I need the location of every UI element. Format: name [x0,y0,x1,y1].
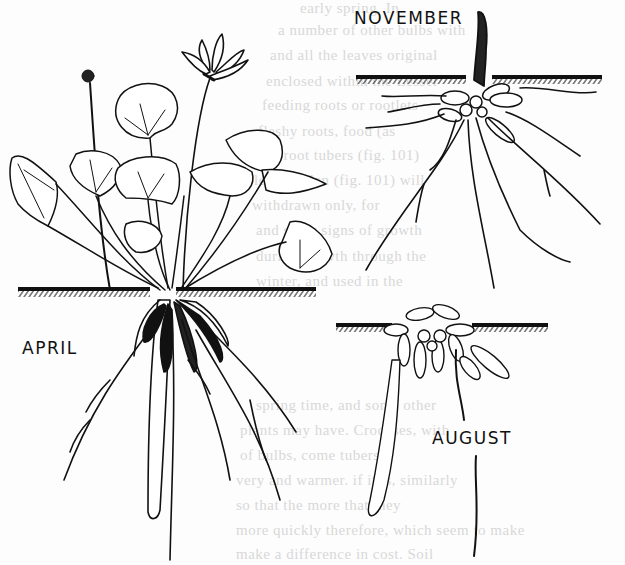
illustration-canvas: early spring. In a number of other bulbs… [0,0,625,565]
label-august: AUGUST [432,428,512,448]
august-root [456,350,477,556]
november-plant [356,12,602,288]
april-roots [64,300,296,560]
drawing [0,0,625,565]
august-tuber-cluster [368,302,513,516]
november-roots [366,88,600,288]
leaves [10,84,332,290]
shoot-icon [474,12,487,86]
label-november: NOVEMBER [354,8,463,28]
april-plant [10,34,332,560]
april-ground-line [18,287,316,297]
label-april: APRIL [22,338,78,358]
